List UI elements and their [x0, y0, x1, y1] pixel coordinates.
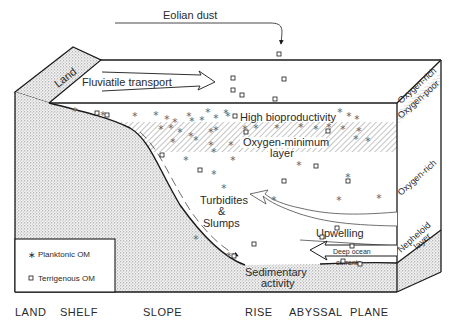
planktonic-om-marker: ∗	[353, 133, 360, 142]
planktonic-om-marker: ∗	[153, 109, 160, 118]
planktonic-om-marker: ∗	[242, 123, 249, 132]
zone-rise: RISE	[245, 306, 273, 318]
oxygen-minimum-layer-label: layer	[270, 147, 294, 159]
planktonic-om-marker: ∗	[132, 110, 139, 119]
planktonic-om-marker: ∗	[223, 107, 230, 116]
terrigenous-om-marker	[335, 226, 339, 230]
planktonic-om-marker: ∗	[193, 134, 200, 143]
terrigenous-om-marker	[160, 153, 164, 157]
planktonic-om-marker: ∗	[221, 182, 228, 191]
planktonic-om-marker: ∗	[211, 168, 218, 177]
planktonic-om-marker: ∗	[253, 122, 260, 131]
planktonic-om-marker: ∗	[326, 121, 333, 130]
planktonic-om-marker: ∗	[199, 114, 206, 123]
planktonic-om-marker: ∗	[354, 113, 361, 122]
fluviatile-transport-label: Fluviatile transport	[82, 76, 172, 88]
oxygen-rich-mid-label: Oxygen-rich	[396, 158, 439, 198]
planktonic-om-marker: ∗	[213, 124, 220, 133]
terrigenous-om-marker	[252, 242, 256, 246]
planktonic-om-marker: ∗	[177, 126, 184, 135]
planktonic-om-marker: ∗	[340, 123, 347, 132]
terrigenous-om-marker	[95, 111, 99, 115]
planktonic-om-marker: ∗	[274, 122, 281, 131]
planktonic-om-marker: ∗	[337, 106, 344, 115]
terrigenous-om-marker	[314, 164, 318, 168]
planktonic-om-marker: ∗	[72, 105, 79, 114]
planktonic-om-marker: ∗	[376, 192, 383, 201]
deep-ocean-label: Deep ocean	[333, 248, 371, 256]
planktonic-om-marker: ∗	[170, 136, 177, 145]
terrigenous-om-marker	[231, 76, 235, 80]
legend-asterisk-icon: ∗	[28, 250, 36, 260]
legend-box	[15, 239, 115, 292]
planktonic-om-marker: ∗	[228, 139, 235, 148]
planktonic-om-marker: ∗	[298, 121, 305, 130]
terrigenous-om-marker	[273, 97, 277, 101]
eolian-dust-arrow	[270, 23, 282, 44]
terrigenous-om-marker	[350, 244, 354, 248]
planktonic-om-marker: ∗	[313, 123, 320, 132]
planktonic-om-marker: ∗	[296, 159, 303, 168]
planktonic-om-marker: ∗	[164, 113, 171, 122]
planktonic-om-marker: ∗	[211, 146, 218, 155]
terrigenous-om-marker	[277, 52, 281, 56]
planktonic-om-marker: ∗	[213, 112, 220, 121]
planktonic-om-marker: ∗	[226, 250, 233, 259]
terrigenous-om-marker	[232, 254, 236, 258]
terrigenous-om-marker	[231, 88, 235, 92]
planktonic-om-marker: ∗	[158, 123, 165, 132]
planktonic-om-marker: ∗	[230, 154, 237, 163]
planktonic-om-marker: ∗	[183, 154, 190, 163]
zone-shelf: SHELF	[60, 306, 98, 318]
deep-sea-diagram: Eolian dust Land Fluviatile transport Hi…	[0, 0, 455, 328]
terrigenous-om-marker	[282, 77, 286, 81]
planktonic-om-marker: ∗	[189, 115, 196, 124]
planktonic-om-marker: ∗	[193, 233, 200, 242]
planktonic-om-marker: ∗	[336, 194, 343, 203]
terrigenous-om-marker	[233, 114, 237, 118]
legend-terrigenous-label: Terrigenous OM	[38, 274, 95, 283]
terrigenous-om-marker	[198, 168, 202, 172]
eolian-dust-label: Eolian dust	[163, 9, 217, 21]
legend-planktonic-label: Planktonic OM	[38, 250, 90, 259]
planktonic-om-marker: ∗	[168, 122, 175, 131]
planktonic-om-marker: ∗	[346, 110, 353, 119]
terrigenous-om-marker	[240, 93, 244, 97]
activity-label: activity	[261, 277, 295, 289]
terrigenous-om-marker	[341, 259, 345, 263]
zone-abyssal: ABYSSAL	[289, 306, 343, 318]
zone-land: LAND	[15, 306, 46, 318]
planktonic-om-marker: ∗	[271, 194, 278, 203]
zone-plane: PLANE	[350, 306, 389, 318]
terrigenous-om-marker	[320, 235, 324, 239]
zone-slope: SLOPE	[143, 306, 182, 318]
planktonic-om-marker: ∗	[205, 106, 212, 115]
planktonic-om-marker: ∗	[100, 109, 107, 118]
terrigenous-om-marker	[358, 262, 362, 266]
planktonic-om-marker: ∗	[345, 171, 352, 180]
planktonic-om-marker: ∗	[365, 135, 372, 144]
ampersand-label: &	[218, 205, 226, 217]
terrigenous-om-marker	[282, 179, 286, 183]
slumps-label: Slumps	[203, 217, 240, 229]
